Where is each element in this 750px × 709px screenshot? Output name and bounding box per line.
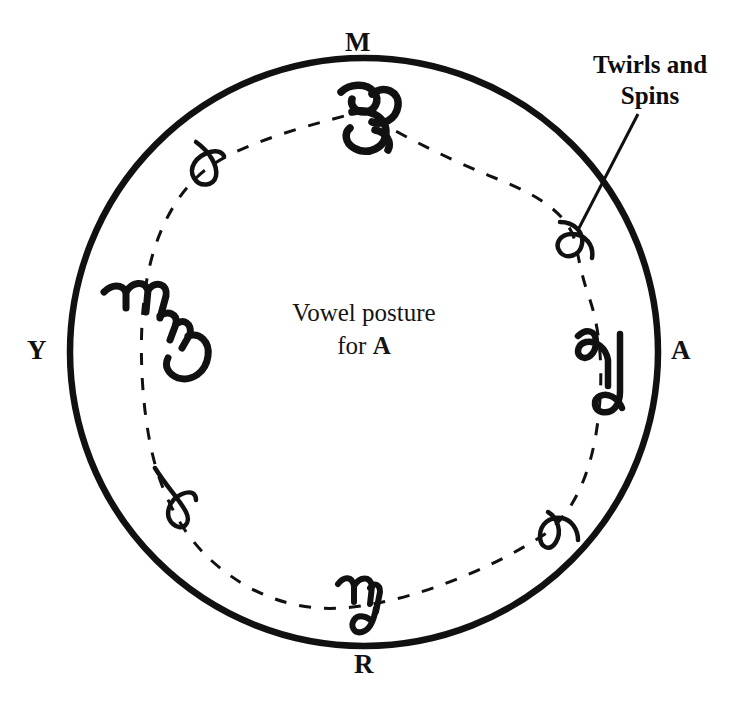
callout-label-line1: Twirls and <box>560 50 740 81</box>
center-caption: Vowel posture for A <box>248 296 480 362</box>
callout-leader-line <box>578 114 638 230</box>
spiral-glyph-upper-right <box>558 222 593 258</box>
cardinal-label-r: R <box>354 651 374 678</box>
center-caption-vowel: A <box>373 332 391 359</box>
callout-label-twirls-and-spins: Twirls and Spins <box>560 50 740 111</box>
curl-glyph-top <box>341 85 398 151</box>
center-caption-line1: Vowel posture <box>248 296 480 329</box>
callout-label-line2: Spins <box>560 81 740 112</box>
cardinal-label-a: A <box>671 337 691 364</box>
loop-glyph-lower-left <box>155 468 196 527</box>
loop-glyph-upper-left <box>192 142 224 185</box>
cardinal-label-y: Y <box>27 337 47 364</box>
cardinal-label-m: M <box>345 29 371 56</box>
center-caption-prefix: for <box>337 332 372 359</box>
loop-glyph-lower-right <box>540 512 578 548</box>
center-caption-line2: for A <box>248 329 480 362</box>
vowel-posture-diagram: M A R Y Vowel posture for A Twirls and S… <box>0 0 750 709</box>
squiggle-glyph-left <box>104 283 208 378</box>
